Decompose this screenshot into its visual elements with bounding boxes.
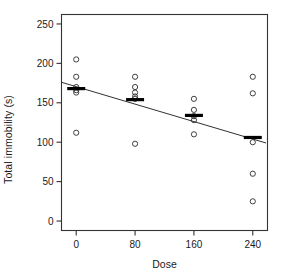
data-point [250,199,255,204]
data-point [250,74,255,79]
data-point [191,96,196,101]
data-point [191,132,196,137]
data-point [250,91,255,96]
data-point [74,130,79,135]
data-point [132,84,137,89]
y-axis-tick-label: 0 [48,216,54,227]
data-point [132,74,137,79]
y-axis-tick-label: 100 [37,137,54,148]
scatter-plot-figure: Total immobility (s) Dose 05010015020025… [0,0,288,279]
data-point [191,107,196,112]
x-axis-tick-label: 160 [186,239,203,250]
x-axis-tick-label: 80 [130,239,142,250]
data-point [250,140,255,145]
plot-canvas: 050100150200250080160240 [0,0,288,279]
x-axis-tick-label: 0 [73,239,79,250]
data-point [250,171,255,176]
plot-frame [62,15,268,231]
regression-line [62,82,267,143]
data-point [74,74,79,79]
x-axis-tick-label: 240 [244,239,261,250]
y-axis-tick-label: 50 [42,176,54,187]
y-axis-tick-label: 150 [37,97,54,108]
y-axis-tick-label: 200 [37,58,54,69]
data-point [74,57,79,62]
y-axis-tick-label: 250 [37,19,54,30]
data-point [132,141,137,146]
